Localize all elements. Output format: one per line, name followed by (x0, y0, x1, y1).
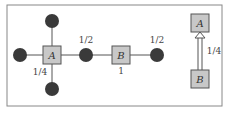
arrow-head-icon (195, 32, 205, 38)
right-node-b-label: B (195, 74, 203, 85)
square-node-a: A (43, 46, 61, 64)
right-node-a-label: A (195, 18, 203, 29)
circle-node-between (79, 48, 93, 62)
diagram-canvas: A B 1/2 1/2 1/4 1 A B 1/4 (0, 0, 228, 114)
circle-node-bottom (45, 82, 59, 96)
label-right-half: 1/2 (150, 35, 164, 45)
square-node-b: B (112, 46, 130, 64)
node-a-label: A (47, 50, 55, 61)
label-between-half: 1/2 (79, 35, 93, 45)
label-a-quarter: 1/4 (33, 67, 48, 77)
circle-node-left (13, 48, 27, 62)
circle-node-right (150, 48, 164, 62)
node-b-label: B (116, 50, 124, 61)
right-edge-label: 1/4 (207, 46, 222, 56)
circle-node-top (45, 14, 59, 28)
label-b-one: 1 (118, 66, 124, 76)
right-graph: A B 1/4 (191, 14, 222, 88)
